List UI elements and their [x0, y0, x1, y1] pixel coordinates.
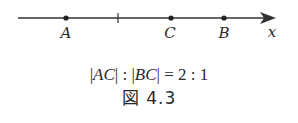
point-a-dot: [63, 15, 68, 20]
point-b-label: B: [218, 26, 229, 41]
point-a-label: A: [61, 26, 72, 41]
segment-ac: AC: [93, 65, 115, 84]
segment-bc: BC: [135, 65, 157, 84]
axis-label: x: [268, 25, 276, 40]
ratio-value: = 2 : 1: [164, 65, 208, 84]
figure-caption: 図 4.3: [0, 90, 298, 107]
point-c-dot: [168, 15, 173, 20]
ratio-formula: |AC| : |BC| = 2 : 1: [0, 66, 298, 83]
point-b-dot: [221, 15, 226, 20]
point-c-label: C: [164, 26, 175, 41]
